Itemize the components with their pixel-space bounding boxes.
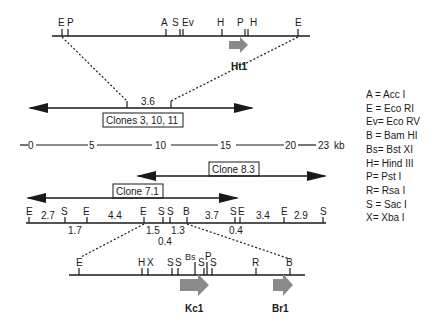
site-label: S (230, 206, 237, 217)
clone-label: Clone 7.1 (116, 186, 159, 197)
site-label: S (167, 206, 174, 217)
site-label: H (250, 17, 257, 28)
site-label: E (295, 17, 302, 28)
legend-item: A = Acc I (366, 88, 420, 102)
scale-tick: 0 (28, 140, 34, 151)
scale-tick: 10 (155, 140, 167, 151)
site-label: E (83, 206, 90, 217)
site-label: S (61, 206, 68, 217)
fragment-size: 3.4 (256, 210, 270, 221)
legend-item: Bs= Bst XI (366, 143, 420, 157)
site-label: S (167, 257, 174, 268)
gene-label-kc1: Kc1 (185, 303, 204, 314)
fragment-size: 1.7 (68, 225, 82, 236)
fragment-size: 1.3 (171, 225, 185, 236)
site-label: S (198, 257, 205, 268)
gene-label-br1: Br1 (272, 303, 289, 314)
gene-arrow-icon (180, 274, 209, 296)
legend-item: H= Hind III (366, 157, 420, 171)
scale-tick: 20 (285, 140, 297, 151)
main-restriction-map: E S E E S S B S E E S 2.7 4.4 3.7 3.4 2.… (26, 206, 327, 259)
site-label: B (183, 206, 190, 217)
clone-label: Clone 8.3 (212, 164, 255, 175)
site-label: P (237, 17, 244, 28)
site-label: S (320, 206, 327, 217)
legend-item: X= Xba I (366, 211, 420, 225)
site-label: X (147, 257, 154, 268)
segment-size: 3.6 (141, 96, 155, 107)
bottom-restriction-map: E H X S S Bs S P S R B Kc1 Br1 (69, 251, 305, 314)
site-label: E (140, 206, 147, 217)
site-label: P (67, 17, 74, 28)
site-label: E (238, 206, 245, 217)
scale-tick: 23 (318, 140, 330, 151)
enzyme-legend: A = Acc I E = Eco RI Ev= Eco RV B = Bam … (366, 88, 420, 225)
kb-scale: 0 5 10 15 20 23 kb (20, 140, 345, 151)
site-label: S (158, 206, 165, 217)
site-label: E (58, 17, 65, 28)
gene-arrow-icon (273, 274, 293, 296)
legend-item: E = Eco RI (366, 102, 420, 116)
site-label: A (161, 17, 168, 28)
clone-label: Clones 3, 10, 11 (106, 115, 179, 126)
fragment-size: 4.4 (108, 210, 122, 221)
gene-arrow-icon (229, 37, 248, 53)
site-label: H (138, 257, 145, 268)
site-label: S (172, 17, 179, 28)
scale-unit: kb (334, 140, 345, 151)
top-restriction-map: E P A S Ev H P H E Ht1 (52, 17, 310, 101)
clone-8-3: Clone 8.3 (136, 162, 327, 181)
legend-item: Ev= Eco RV (366, 115, 420, 129)
site-label: B (286, 257, 293, 268)
clone-7-1: Clone 7.1 (26, 184, 239, 203)
fragment-size: 0.4 (229, 225, 243, 236)
fragment-size: 2.9 (294, 210, 308, 221)
fragment-size: 0.4 (158, 236, 172, 247)
fragment-size: 3.7 (205, 210, 219, 221)
legend-item: S = Sac I (366, 198, 420, 212)
scale-tick: 5 (89, 140, 95, 151)
fragment-size: 2.7 (41, 210, 55, 221)
site-label: Bs (185, 252, 196, 262)
site-label: S (210, 257, 217, 268)
site-label: E (76, 257, 83, 268)
fragment-size: 1.5 (146, 225, 160, 236)
legend-item: R= Rsa I (366, 184, 420, 198)
site-label: E (281, 206, 288, 217)
site-label: H (217, 17, 224, 28)
site-label: E (26, 206, 33, 217)
legend-item: P= Pst I (366, 170, 420, 184)
site-label: S (175, 257, 182, 268)
scale-tick: 15 (220, 140, 232, 151)
site-label: Ev (182, 17, 194, 28)
legend-item: B = Bam HI (366, 129, 420, 143)
clone-3-10-11: 3.6 Clones 3, 10, 11 (28, 96, 254, 127)
site-label: R (252, 257, 259, 268)
